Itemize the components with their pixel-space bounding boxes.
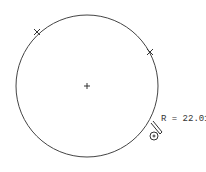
marker-1-icon [34,29,40,35]
cad-canvas[interactable] [0,0,206,172]
center-mark-icon [84,83,90,89]
radius-label: R = 22.01 [161,114,206,124]
